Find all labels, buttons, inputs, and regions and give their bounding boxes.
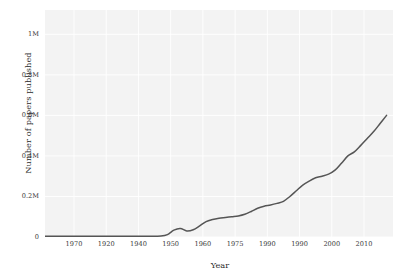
chart-figure: Number of papers published 00.2M0.4M0.6M…	[0, 0, 399, 277]
x-tick-label: 2010	[344, 240, 384, 248]
y-tick-label: 0.4M	[0, 152, 39, 160]
y-tick-label: 0.2M	[0, 192, 39, 200]
y-tick-label: 0.8M	[0, 71, 39, 79]
y-tick-label: 0.6M	[0, 111, 39, 119]
y-tick-label: 0	[0, 233, 39, 241]
plot-area	[45, 10, 393, 237]
x-axis-title: Year	[45, 260, 395, 270]
data-line	[45, 10, 393, 237]
y-tick-label: 1M	[0, 30, 39, 38]
y-axis-title: Number of papers published	[23, 23, 33, 203]
